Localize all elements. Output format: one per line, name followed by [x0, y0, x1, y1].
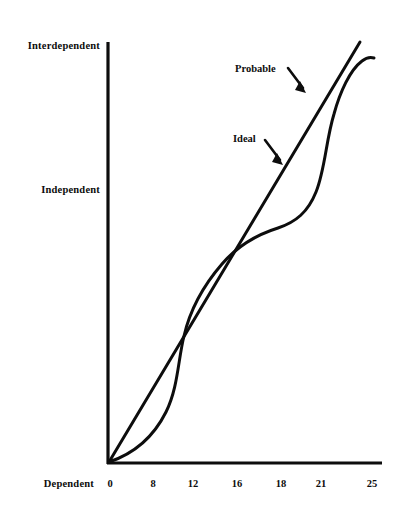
x-tick-label-0: 0 [97, 478, 123, 490]
x-axis-label-dependent: Dependent [0, 478, 94, 490]
annotation-label-ideal: Ideal [233, 133, 256, 145]
probable-arrow-icon [288, 68, 306, 93]
x-tick-label-8: 8 [140, 478, 166, 490]
annotation-label-probable: Probable [235, 63, 276, 75]
chart-page: Interdependent Independent Dependent 0 8… [0, 0, 405, 506]
x-tick-label-12: 12 [180, 478, 206, 490]
x-tick-label-18: 18 [268, 478, 294, 490]
y-axis-label-independent: Independent [0, 184, 100, 196]
x-tick-label-16: 16 [224, 478, 250, 490]
probable-curve-series [109, 57, 374, 462]
ideal-arrow-icon [265, 140, 283, 165]
x-tick-label-25: 25 [359, 478, 385, 490]
x-tick-label-21: 21 [308, 478, 334, 490]
y-axis-label-interdependent: Interdependent [0, 40, 100, 52]
chart-canvas [0, 0, 405, 506]
